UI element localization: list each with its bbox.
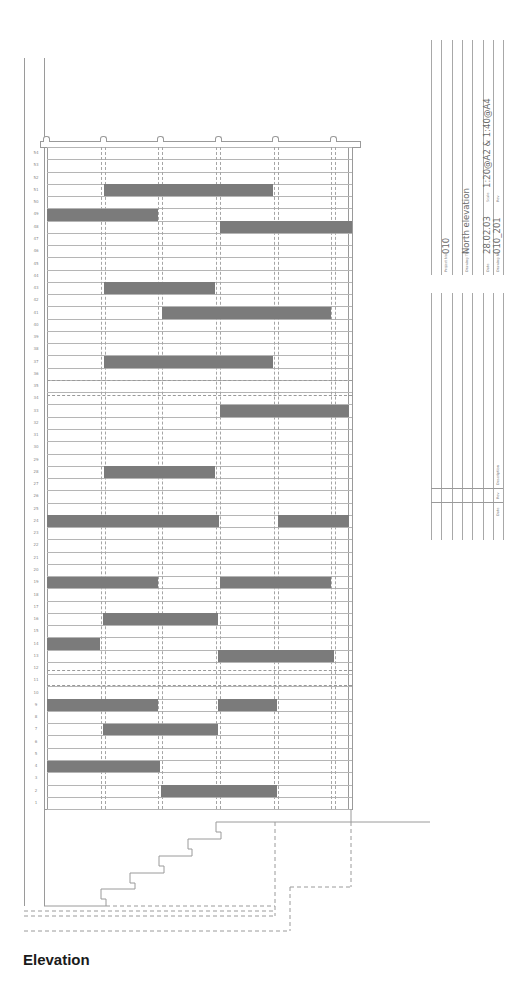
floor-number: 49 [30, 211, 42, 217]
title-block: Project No 010 Drawing Title North eleva… [426, 40, 506, 540]
floor-number: 12 [30, 665, 42, 671]
date-label: Date [486, 264, 490, 272]
floor-line [47, 454, 352, 455]
facade-panel [47, 577, 158, 589]
floor-break-line [47, 685, 352, 686]
floor-number: 7 [30, 726, 42, 732]
floor-number: 6 [30, 739, 42, 745]
floor-number: 35 [30, 383, 42, 389]
facade-panel [47, 761, 160, 773]
floor-line [47, 748, 352, 749]
ground-and-stairs [0, 800, 529, 940]
floor-line [47, 564, 352, 565]
floor-number: 3 [30, 775, 42, 781]
floor-line [47, 552, 352, 553]
floor-line [47, 588, 352, 589]
mullion-line [158, 147, 163, 809]
rev-table-description-label: Description [496, 465, 500, 485]
drawing-no-label: Drawing No [496, 252, 500, 272]
floor-number: 27 [30, 481, 42, 487]
floor-line [47, 662, 352, 663]
facade-panel [104, 184, 273, 196]
floor-number: 47 [30, 236, 42, 242]
floor-number: 15 [30, 628, 42, 634]
floor-number: 29 [30, 457, 42, 463]
rev-label: Rev [496, 196, 500, 203]
floor-number: 17 [30, 604, 42, 610]
floor-number: 9 [30, 702, 42, 708]
floor-line [47, 797, 352, 798]
floor-number: 14 [30, 641, 42, 647]
floor-line [47, 429, 352, 430]
floor-line [47, 686, 352, 687]
floor-number: 41 [30, 310, 42, 316]
floor-number: 22 [30, 542, 42, 548]
floor-number: 25 [30, 506, 42, 512]
floor-number: 44 [30, 273, 42, 279]
rev-table-date-label: Date [496, 508, 500, 516]
facade-right-edge [352, 147, 353, 809]
drawing-caption: Elevation [23, 951, 90, 968]
floor-number: 36 [30, 371, 42, 377]
facade-panel [47, 699, 158, 711]
floor-line [47, 711, 352, 712]
floor-number: 26 [30, 493, 42, 499]
project-no: 010 [441, 238, 451, 254]
floor-line [47, 772, 352, 773]
facade-panel [104, 282, 215, 294]
title-block-line [452, 40, 453, 275]
title-block-line [503, 40, 504, 275]
scale-value: 1:20@A2 & 1:40@A4 [482, 98, 492, 188]
floor-number: 31 [30, 432, 42, 438]
floor-line [47, 478, 352, 479]
revisions-line [503, 293, 504, 540]
floor-line [47, 172, 352, 173]
facade-panel [220, 405, 349, 417]
floor-line [47, 601, 352, 602]
floor-number: 50 [30, 199, 42, 205]
floor-number: 28 [30, 469, 42, 475]
drawing-no: 010_201 [492, 217, 502, 254]
floor-line [47, 441, 352, 442]
floor-number: 10 [30, 690, 42, 696]
mullion-line [331, 147, 336, 809]
floor-number: 38 [30, 346, 42, 352]
floor-number: 18 [30, 592, 42, 598]
facade-panel [218, 650, 334, 662]
floor-number: 34 [30, 395, 42, 401]
floor-line [47, 417, 352, 418]
floor-number: 30 [30, 444, 42, 450]
floor-number: 16 [30, 616, 42, 622]
floor-number: 4 [30, 763, 42, 769]
floor-line [47, 539, 352, 540]
facade-panel [47, 515, 219, 527]
floor-number: 53 [30, 162, 42, 168]
floor-line [47, 490, 352, 491]
facade-panel [104, 356, 273, 368]
facade-panel [220, 577, 331, 589]
floor-number: 23 [30, 530, 42, 536]
facade-panel [218, 699, 277, 711]
drawing-title: North elevation [461, 188, 471, 254]
facade-panel [103, 724, 218, 736]
floor-line [47, 527, 352, 528]
floor-line [47, 735, 352, 736]
floor-number: 37 [30, 359, 42, 365]
floor-line [47, 343, 352, 344]
floor-line [47, 625, 352, 626]
floor-line [47, 270, 352, 271]
floor-number: 11 [30, 677, 42, 683]
facade-panel [47, 638, 100, 650]
floor-number: 51 [30, 187, 42, 193]
floor-number: 46 [30, 248, 42, 254]
floor-line [47, 392, 352, 393]
floor-number: 40 [30, 322, 42, 328]
facade-panel [161, 785, 277, 797]
floor-number: 54 [30, 150, 42, 156]
title-block-line [431, 40, 432, 275]
floor-number: 32 [30, 420, 42, 426]
floor-break-line [47, 670, 352, 671]
floor-number: 52 [30, 175, 42, 181]
floor-number: 42 [30, 297, 42, 303]
revisions-divider [431, 502, 503, 503]
